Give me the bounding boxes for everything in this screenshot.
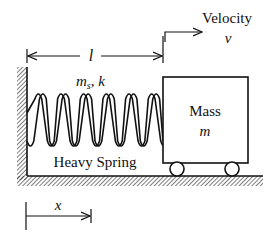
mass-symbol: m: [200, 123, 211, 139]
position-dimension: x: [26, 197, 91, 230]
velocity-symbol: v: [225, 30, 232, 46]
wheel-right: [225, 162, 239, 176]
length-symbol: l: [89, 47, 94, 64]
heavy-spring: [27, 94, 168, 146]
wall: [17, 67, 27, 180]
spring-mass-diagram: Mass m l ms, k Heavy Spring Velocity v x: [0, 0, 278, 242]
mass-label: Mass: [189, 103, 221, 119]
velocity-arrow: [165, 32, 202, 42]
floor-hatching: [17, 176, 263, 186]
spring-parameters: ms, k: [76, 73, 105, 91]
velocity-label: Velocity: [202, 10, 252, 26]
wheel-left: [170, 162, 184, 176]
mass-box: [163, 77, 248, 163]
spring-label: Heavy Spring: [54, 154, 137, 170]
length-dimension: l: [27, 36, 163, 64]
position-symbol: x: [54, 197, 62, 213]
spring-mass-symbol: m: [76, 73, 87, 89]
floor: [17, 176, 263, 186]
spring-stiffness-symbol: , k: [91, 73, 106, 89]
velocity-indicator: Velocity v: [165, 10, 252, 46]
mass-block: Mass m: [163, 77, 248, 176]
wall-hatching: [17, 67, 27, 180]
